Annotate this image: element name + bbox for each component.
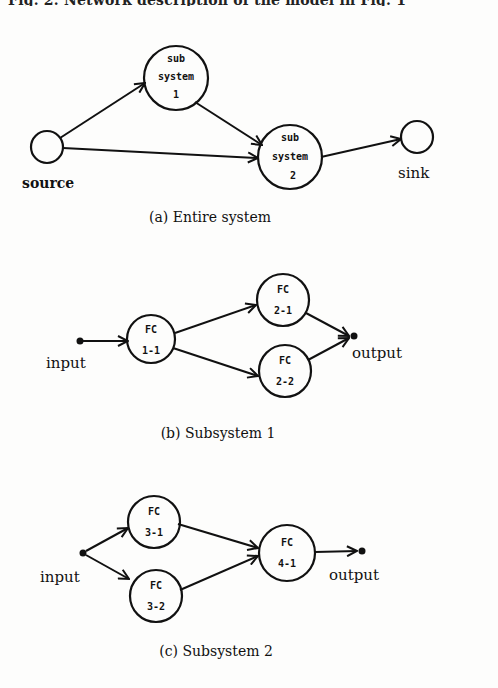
edge-fc-2-2-to-output — [308, 338, 349, 360]
edge-fc-1-1-to-fc-2-2 — [173, 348, 258, 376]
fc-3-2-line-2: 3-2 — [147, 601, 165, 612]
input-label: input — [40, 568, 80, 586]
fc-2-1-line-2: 2-1 — [274, 305, 292, 316]
edge-subsystem-2-to-sink — [321, 139, 401, 157]
subsystem-2-line-1: sub — [281, 132, 299, 143]
panel-b-subsystem-1: input FC 1-1 FC 2-1 FC 2-2 outpu — [46, 274, 402, 441]
edge-fc-3-1-to-fc-4-1 — [178, 524, 258, 548]
node-fc-1-1: FC 1-1 — [127, 315, 175, 363]
fc-4-1-line-2: 4-1 — [278, 558, 296, 569]
edge-fc-4-1-to-output — [315, 551, 357, 552]
edge-fc-3-2-to-fc-4-1 — [180, 556, 258, 590]
node-fc-4-1: FC 4-1 — [259, 525, 315, 581]
caption-a: (a) Entire system — [149, 209, 271, 225]
input-terminal-dot — [80, 550, 87, 557]
fc-2-2-line-1: FC — [279, 355, 291, 366]
edge-source-to-subsystem-2 — [63, 148, 258, 158]
fc-2-2-line-2: 2-2 — [276, 376, 294, 387]
fc-3-2-line-1: FC — [150, 580, 162, 591]
caption-b: (b) Subsystem 1 — [161, 425, 276, 441]
output-terminal-dot — [359, 548, 366, 555]
node-fc-3-2: FC 3-2 — [130, 570, 182, 622]
node-fc-2-2: FC 2-2 — [259, 345, 311, 397]
node-subsystem-2: sub system 2 — [258, 125, 322, 189]
sink-label: sink — [398, 164, 430, 182]
fc-3-1-line-1: FC — [148, 506, 160, 517]
output-label: output — [352, 344, 402, 362]
node-fc-2-1: FC 2-1 — [257, 274, 309, 326]
node-subsystem-1: sub system 1 — [144, 46, 208, 110]
subsystem-2-line-3: 2 — [290, 170, 296, 181]
fc-2-1-line-1: FC — [277, 284, 289, 295]
subsystem-2-line-2: system — [272, 151, 308, 162]
edge-fc-1-1-to-fc-2-1 — [175, 305, 256, 333]
input-label: input — [46, 354, 86, 372]
edge-subsystem-1-to-subsystem-2 — [195, 102, 262, 145]
edge-input-to-fc-3-2 — [86, 555, 129, 579]
figure-page: Fig. 2. Network description of the model… — [0, 0, 498, 688]
panel-a-entire-system: source sub system 1 sub system 2 sink — [22, 46, 433, 225]
caption-c: (c) Subsystem 2 — [159, 643, 273, 659]
input-terminal-dot — [77, 338, 84, 345]
fc-3-1-line-2: 3-1 — [145, 527, 163, 538]
subsystem-1-line-2: system — [158, 71, 194, 82]
output-label: output — [329, 566, 379, 584]
node-fc-3-1: FC 3-1 — [128, 496, 180, 548]
network-diagram: source sub system 1 sub system 2 sink — [0, 0, 498, 688]
subsystem-1-line-3: 1 — [173, 89, 179, 100]
fc-4-1-line-1: FC — [281, 537, 293, 548]
source-label: source — [22, 175, 74, 191]
node-source: source — [22, 131, 74, 191]
node-sink: sink — [398, 121, 433, 182]
edge-fc-2-1-to-output — [306, 313, 349, 336]
subsystem-1-line-1: sub — [167, 53, 185, 64]
edge-input-to-fc-3-1 — [86, 528, 128, 551]
fc-1-1-line-1: FC — [145, 324, 157, 335]
edge-source-to-subsystem-1 — [60, 83, 145, 138]
output-terminal-dot — [351, 333, 358, 340]
panel-c-subsystem-2: input FC 3-1 FC 3-2 FC 4-1 outpu — [40, 496, 379, 659]
fc-1-1-line-2: 1-1 — [142, 345, 160, 356]
